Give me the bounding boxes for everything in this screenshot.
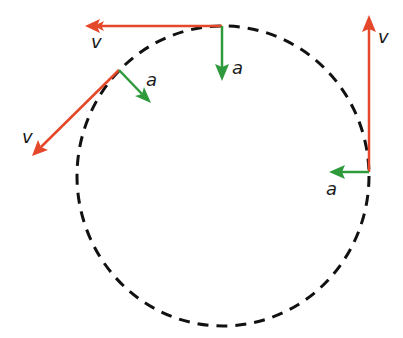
velocity-arrow-upper-left bbox=[41, 70, 119, 147]
circular-motion-diagram: v a v a v a bbox=[0, 0, 403, 338]
acceleration-label-upper-left: a bbox=[146, 69, 157, 90]
acceleration-arrow-upper-left bbox=[119, 70, 142, 94]
velocity-label-upper-left: v bbox=[22, 126, 33, 147]
upper-left-point-vectors: v a bbox=[22, 69, 157, 156]
velocity-label-right: v bbox=[378, 26, 389, 47]
diagram-svg: v a v a v a bbox=[0, 0, 403, 338]
right-point-vectors: v a bbox=[326, 15, 389, 199]
top-point-vectors: v a bbox=[85, 19, 243, 81]
acceleration-label-right: a bbox=[326, 178, 337, 199]
acceleration-label-top: a bbox=[232, 57, 243, 78]
velocity-label-top: v bbox=[91, 31, 102, 52]
